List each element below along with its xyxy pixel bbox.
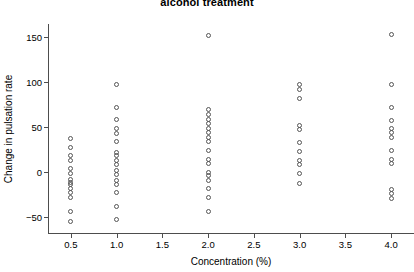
data-point bbox=[68, 145, 73, 150]
data-point bbox=[68, 136, 73, 141]
data-point bbox=[114, 204, 119, 209]
data-point bbox=[206, 148, 211, 153]
x-axis-title: Concentration (%) bbox=[191, 256, 272, 267]
data-point bbox=[114, 82, 119, 87]
data-point bbox=[68, 166, 73, 171]
y-tick-label: 50 bbox=[31, 122, 42, 133]
x-tick-label: 1.0 bbox=[110, 239, 123, 250]
data-point bbox=[389, 32, 394, 37]
data-point bbox=[114, 131, 119, 136]
data-point bbox=[206, 161, 211, 166]
data-point bbox=[114, 139, 119, 144]
data-point bbox=[389, 118, 394, 123]
data-point bbox=[206, 178, 211, 183]
data-point bbox=[206, 209, 211, 214]
y-tick-label: 150 bbox=[26, 32, 42, 43]
data-point bbox=[389, 105, 394, 110]
x-tick-mark bbox=[391, 234, 392, 238]
data-point bbox=[114, 162, 119, 167]
data-point bbox=[114, 182, 119, 187]
data-point bbox=[297, 96, 302, 101]
y-tick-mark bbox=[44, 217, 48, 218]
data-point bbox=[68, 171, 73, 176]
data-point bbox=[297, 181, 302, 186]
y-tick-label: −50 bbox=[26, 211, 42, 222]
data-point bbox=[389, 148, 394, 153]
data-point bbox=[114, 105, 119, 110]
y-tick-mark bbox=[44, 82, 48, 83]
y-axis-line bbox=[48, 24, 49, 233]
x-tick-mark bbox=[71, 234, 72, 238]
data-point bbox=[389, 196, 394, 201]
data-point bbox=[114, 172, 119, 177]
data-point bbox=[297, 87, 302, 92]
data-point bbox=[206, 186, 211, 191]
data-point bbox=[114, 117, 119, 122]
x-tick-mark bbox=[345, 234, 346, 238]
data-point bbox=[297, 140, 302, 145]
x-tick-mark bbox=[162, 234, 163, 238]
scatter-plot-figure: alcohol treatment −50050100150 0.51.01.5… bbox=[0, 0, 414, 272]
data-point bbox=[206, 195, 211, 200]
data-point bbox=[297, 162, 302, 167]
data-point bbox=[206, 107, 211, 112]
y-tick-mark bbox=[44, 37, 48, 38]
data-point bbox=[297, 171, 302, 176]
data-point bbox=[297, 127, 302, 132]
x-tick-label: 0.5 bbox=[64, 239, 77, 250]
x-tick-label: 4.0 bbox=[385, 239, 398, 250]
x-tick-label: 3.0 bbox=[293, 239, 306, 250]
x-tick-label: 2.5 bbox=[247, 239, 260, 250]
data-point bbox=[389, 130, 394, 135]
data-point bbox=[206, 139, 211, 144]
x-tick-mark bbox=[208, 234, 209, 238]
y-tick-mark bbox=[44, 172, 48, 173]
data-point bbox=[68, 158, 73, 163]
data-point bbox=[68, 219, 73, 224]
data-point bbox=[68, 209, 73, 214]
data-point bbox=[68, 195, 73, 200]
data-point bbox=[389, 161, 394, 166]
x-tick-mark bbox=[300, 234, 301, 238]
x-tick-label: 1.5 bbox=[156, 239, 169, 250]
x-tick-label: 3.5 bbox=[339, 239, 352, 250]
data-point bbox=[114, 217, 119, 222]
x-tick-mark bbox=[117, 234, 118, 238]
y-tick-label: 0 bbox=[37, 167, 42, 178]
data-point bbox=[297, 149, 302, 154]
x-axis-line bbox=[48, 233, 414, 234]
data-point bbox=[389, 82, 394, 87]
x-tick-mark bbox=[254, 234, 255, 238]
chart-title: alcohol treatment bbox=[0, 0, 414, 8]
data-point bbox=[114, 190, 119, 195]
y-axis-title: Change in pulsation rate bbox=[3, 74, 14, 182]
y-tick-label: 100 bbox=[26, 77, 42, 88]
y-tick-mark bbox=[44, 127, 48, 128]
data-point bbox=[389, 135, 394, 140]
plot-area: −50050100150 0.51.01.52.02.53.03.54.0 Co… bbox=[48, 24, 414, 233]
x-tick-label: 2.0 bbox=[202, 239, 215, 250]
data-point bbox=[206, 33, 211, 38]
